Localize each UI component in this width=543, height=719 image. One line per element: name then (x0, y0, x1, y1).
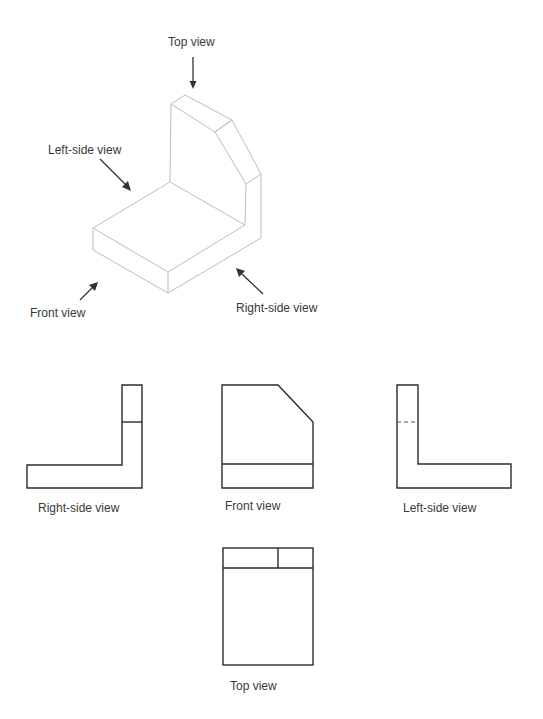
arrow-right-side-view (242, 274, 263, 294)
upright-inner-vertical (245, 184, 246, 225)
base-top-face (93, 182, 245, 272)
view-direction-left-side: Left-side view (48, 143, 131, 191)
view-direction-right-side: Right-side view (236, 268, 318, 315)
label-ortho-front: Front view (225, 499, 281, 513)
left-side-outline (397, 385, 511, 488)
ortho-front-view: Front view (222, 385, 313, 513)
right-side-outline (27, 385, 142, 488)
label-ortho-left-side: Left-side view (403, 501, 477, 515)
view-direction-top: Top view (168, 35, 215, 89)
ortho-right-side-view: Right-side view (27, 385, 142, 515)
arrow-left-side-view (100, 159, 126, 185)
top-outline (223, 548, 313, 665)
isometric-block (93, 95, 261, 293)
arrow-front-view (80, 287, 93, 300)
front-outline (222, 385, 313, 488)
label-front-view: Front view (30, 306, 86, 320)
projection-diagram: Top view Left-side view Front view Right… (0, 0, 543, 719)
label-left-side-view: Left-side view (48, 143, 122, 157)
base-left-face (93, 228, 168, 293)
base-right-face (168, 238, 261, 293)
ortho-left-side-view: Left-side view (397, 385, 511, 515)
label-ortho-right-side: Right-side view (38, 501, 120, 515)
view-direction-front: Front view (30, 282, 98, 320)
upright-chamfer-face (215, 120, 261, 184)
arrowhead-icon (190, 81, 197, 89)
ortho-top-view: Top view (223, 548, 313, 693)
label-ortho-top: Top view (230, 679, 277, 693)
label-right-side-view: Right-side view (236, 301, 318, 315)
upright-left-edge (170, 104, 171, 182)
label-top-view: Top view (168, 35, 215, 49)
